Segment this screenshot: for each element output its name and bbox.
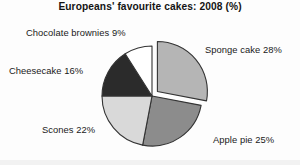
pie-slice-scones (102, 96, 152, 145)
slice-label-scones: Scones 22% (42, 124, 95, 135)
pie-slice-sponge-cake (157, 42, 207, 101)
slice-label-chocolate-brownies: Chocolate brownies 9% (26, 27, 126, 38)
slice-label-apple-pie: Apple pie 25% (213, 134, 274, 145)
pie-slice-apple-pie (143, 96, 201, 146)
slice-label-cheesecake: Cheesecake 16% (9, 65, 83, 76)
pie-chart-figure: Europeans' favourite cakes: 2008 (%) Spo… (0, 0, 300, 165)
slice-label-sponge-cake: Sponge cake 28% (205, 44, 282, 55)
page-edge-smudge (0, 160, 300, 165)
pie-slice-group (102, 42, 207, 146)
